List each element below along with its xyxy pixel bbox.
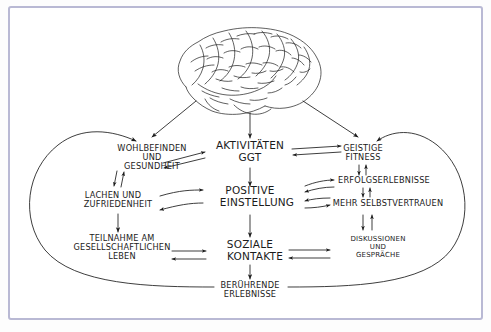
node-geistige-fitness-line2: FITNESS [320,153,406,162]
edge-positive-lachen-left [160,203,203,210]
edge-lachen-positive-right [160,190,203,196]
edge-brain-to-geistige-fitness [303,101,358,137]
edge-erfolgs-positive-left [305,187,334,192]
node-mehr-selbstvertrauen-line1: MEHR SELBSTVERTRAUEN [332,199,444,208]
node-aktivitaeten-line1: AKTIVITÄTEN [202,140,298,152]
node-geistige-fitness[interactable]: GEISTIGE FITNESS [320,144,406,162]
node-lachen-line2: ZUFRIEDENHEIT [62,200,164,209]
node-wohlbefinden[interactable]: WOHLBEFINDEN UND GESUNDHEIT [102,144,202,172]
diagram-page: WOHLBEFINDEN UND GESUNDHEIT AKTIVITÄTEN … [0,0,491,332]
node-soziale-line2: KONTAKTE [202,251,298,263]
node-aktivitaeten-line2: GGT [202,152,298,164]
brain-illustration [178,28,321,115]
node-teilnahme[interactable]: TEILNAHME AM GESELLSCHAFTLICHEN LEBEN [62,234,182,262]
edge-selbstvertrauen-positive-left [305,198,330,201]
node-mehr-selbstvertrauen[interactable]: MEHR SELBSTVERTRAUEN [332,199,444,208]
node-positive-line2: EINSTELLUNG [198,197,302,209]
node-wohlbefinden-line3: GESUNDHEIT [102,162,202,171]
edge-positive-selbstvertrauen-right [305,205,330,208]
node-diskussionen[interactable]: DISKUSSIONEN UND GESPRÄCHE [334,236,422,259]
node-erfolgserlebnisse[interactable]: ERFOLGSERLEBNISSE [334,176,434,185]
node-beruehrende-line2: ERLEBNISSE [204,290,296,299]
node-positive-line1: POSITIVE [198,185,302,197]
node-soziale-line1: SOZIALE [202,239,298,251]
node-erfolgserlebnisse-line1: ERFOLGSERLEBNISSE [334,176,434,185]
node-soziale-kontakte[interactable]: SOZIALE KONTAKTE [202,239,298,263]
edge-positive-erfolgs-right [305,180,334,186]
node-beruehrende-erlebnisse[interactable]: BERÜHRENDE ERLEBNISSE [204,281,296,299]
edge-wohlbefinden-lachen-down [114,171,117,186]
node-aktivitaeten[interactable]: AKTIVITÄTEN GGT [202,140,298,164]
node-teilnahme-line3: LEBEN [62,252,182,261]
node-diskussionen-line3: GESPRÄCHE [334,252,422,260]
node-lachen-zufriedenheit[interactable]: LACHEN UND ZUFRIEDENHEIT [62,191,164,209]
edge-lachen-wohlbefinden-up [121,172,124,187]
edge-brain-to-wohlbefinden [152,101,196,137]
node-positive-einstellung[interactable]: POSITIVE EINSTELLUNG [198,185,302,209]
